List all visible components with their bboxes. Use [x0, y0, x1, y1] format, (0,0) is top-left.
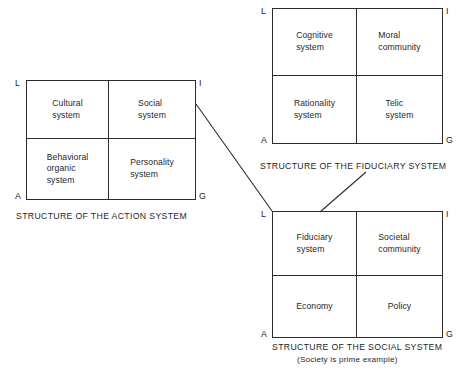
action-system-cell-L: Cultural system — [27, 81, 109, 139]
action-system-corner-I: I — [199, 79, 202, 88]
social-system-caption: STRUCTURE OF THE SOCIAL SYSTEM — [272, 342, 442, 354]
action-system-caption: STRUCTURE OF THE ACTION SYSTEM — [16, 211, 187, 223]
fiduciary-system-corner-G: G — [446, 136, 453, 145]
social-system-cell-G: Policy — [357, 276, 442, 337]
action-system-cell-G: Personality system — [109, 139, 195, 199]
cell-label: Telic system — [386, 98, 414, 121]
fiduciary-system-box: Cognitive system Moral community Rationa… — [272, 8, 443, 144]
social-system-corner-A: A — [261, 330, 267, 339]
action-system-corner-L: L — [15, 79, 20, 88]
cell-label: Moral community — [378, 30, 420, 53]
action-system-cell-A: Behavioral organic system — [27, 139, 109, 199]
action-system-box: Cultural system Social system Behavioral… — [26, 80, 196, 200]
fiduciary-system-expansion-line — [320, 172, 366, 212]
fiduciary-system-corner-I: I — [446, 7, 449, 16]
agil-diagram-figure: Cultural system Social system Behavioral… — [0, 0, 463, 372]
cell-label: Rationality system — [294, 98, 335, 121]
cell-label: Personality system — [130, 157, 174, 180]
social-system-cell-A: Economy — [273, 276, 357, 337]
action-system-cell-I: Social system — [109, 81, 195, 139]
fiduciary-system-caption: STRUCTURE OF THE FIDUCIARY SYSTEM — [260, 161, 446, 173]
action-system-corner-A: A — [15, 192, 21, 201]
fiduciary-system-cell-A: Rationality system — [273, 76, 357, 143]
action-system-corner-G: G — [199, 192, 206, 201]
cell-label: Cultural system — [52, 98, 82, 121]
social-system-corner-L: L — [261, 210, 266, 219]
social-system-cell-L: Fiduciary system — [273, 212, 357, 276]
fiduciary-system-corner-A: A — [261, 136, 267, 145]
social-system-box: Fiduciary system Societal community Econ… — [272, 211, 443, 338]
cell-label: Social system — [138, 98, 166, 121]
fiduciary-system-cell-G: Telic system — [357, 76, 442, 143]
fiduciary-system-cell-L: Cognitive system — [273, 9, 357, 76]
cell-label: Policy — [388, 301, 412, 313]
social-system-corner-G: G — [446, 330, 453, 339]
fiduciary-system-cell-I: Moral community — [357, 9, 442, 76]
cell-label: Fiduciary system — [297, 232, 333, 255]
fiduciary-system-corner-L: L — [261, 7, 266, 16]
social-system-subcaption: (Society is prime example) — [297, 355, 398, 366]
cell-label: Economy — [296, 301, 333, 313]
cell-label: Cognitive system — [296, 30, 333, 53]
social-system-expansion-line — [196, 104, 272, 211]
social-system-cell-I: Societal community — [357, 212, 442, 276]
cell-label: Societal community — [378, 232, 420, 255]
cell-label: Behavioral organic system — [47, 152, 89, 187]
social-system-corner-I: I — [446, 210, 449, 219]
